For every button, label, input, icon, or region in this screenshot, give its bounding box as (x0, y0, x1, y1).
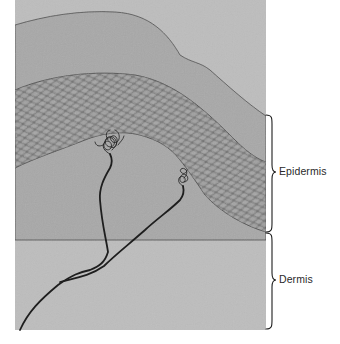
dermis-brace (266, 233, 276, 329)
dermis-label: Dermis (279, 273, 313, 285)
epidermis-brace (266, 115, 276, 232)
braces (266, 115, 276, 329)
epidermis-label: Epidermis (279, 165, 327, 177)
